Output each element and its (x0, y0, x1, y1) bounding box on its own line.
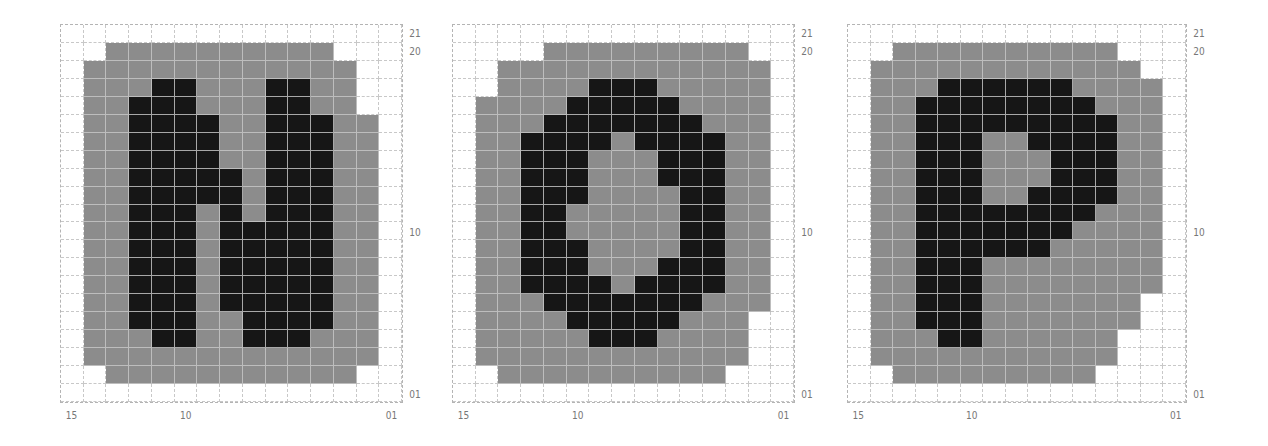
grid-cell (1096, 222, 1119, 240)
grid-cell (589, 294, 612, 312)
grid-cell (544, 312, 567, 330)
grid-cell (544, 240, 567, 258)
grid-cell (589, 97, 612, 115)
grid-cell (658, 348, 681, 366)
grid-cell (1006, 169, 1029, 187)
grid-cell (498, 79, 521, 97)
grid-cell (771, 366, 794, 384)
grid-cell (1028, 222, 1051, 240)
grid-cell (567, 97, 590, 115)
grid-cell (1096, 294, 1119, 312)
grid-cell (453, 258, 476, 276)
grid-cell (476, 169, 499, 187)
grid-cell (453, 240, 476, 258)
grid-cell (61, 151, 84, 169)
grid-cell (84, 97, 107, 115)
grid-cell (567, 294, 590, 312)
grid-cell (635, 97, 658, 115)
grid-cell (726, 187, 749, 205)
grid-cell (658, 97, 681, 115)
grid-cell (589, 330, 612, 348)
grid-cell (961, 366, 984, 384)
grid-cell (453, 330, 476, 348)
grid-cell (129, 205, 152, 223)
grid-cell (1006, 384, 1029, 402)
grid-cell (749, 43, 772, 61)
grid-cell (266, 312, 289, 330)
grid-cell (129, 294, 152, 312)
grid-cell (893, 258, 916, 276)
grid-cell (893, 222, 916, 240)
grid-cell (749, 205, 772, 223)
grid-cell (266, 43, 289, 61)
grid-cell (726, 222, 749, 240)
grid-cell (658, 25, 681, 43)
grid-cell (680, 79, 703, 97)
grid-cell (175, 79, 198, 97)
grid-cell (379, 169, 402, 187)
grid-cell (61, 366, 84, 384)
grid-cell (1141, 205, 1164, 223)
grid-cell (1118, 258, 1141, 276)
grid-cell (1051, 115, 1074, 133)
grid-cell (893, 348, 916, 366)
grid-cell (84, 79, 107, 97)
grid-cell (220, 115, 243, 133)
grid-cell (589, 115, 612, 133)
grid-cell (220, 133, 243, 151)
grid-cell (1096, 133, 1119, 151)
grid-cell (1141, 258, 1164, 276)
grid-cell (567, 133, 590, 151)
grid-cell (175, 151, 198, 169)
grid-cell (703, 294, 726, 312)
grid-cell (544, 169, 567, 187)
grid-cell (243, 115, 266, 133)
grid-cell (1006, 258, 1029, 276)
grid-cell (152, 61, 175, 79)
grid-cell (220, 330, 243, 348)
grid-cell (1006, 348, 1029, 366)
grid-cell (1163, 276, 1186, 294)
grid-cell (379, 384, 402, 402)
grid-cell (871, 61, 894, 79)
grid-cell (334, 115, 357, 133)
grid-cell (1051, 312, 1074, 330)
grid-cell (848, 240, 871, 258)
grid-cell (1096, 366, 1119, 384)
grid-cell (498, 222, 521, 240)
grid-cell (379, 133, 402, 151)
grid-cell (848, 348, 871, 366)
grid-cell (1118, 115, 1141, 133)
grid-cell (357, 97, 380, 115)
grid-cell (152, 222, 175, 240)
grid-cell (1141, 133, 1164, 151)
grid-cell (771, 240, 794, 258)
grid-cell (1028, 240, 1051, 258)
grid-cell (961, 294, 984, 312)
grid-cell (871, 258, 894, 276)
grid-cell (1073, 330, 1096, 348)
grid-cell (175, 133, 198, 151)
grid-cell (84, 384, 107, 402)
grid-cell (612, 222, 635, 240)
grid-cell (357, 43, 380, 61)
grid-cell (521, 97, 544, 115)
grid-cell (357, 258, 380, 276)
grid-cell (129, 276, 152, 294)
grid-cell (357, 61, 380, 79)
grid-cell (848, 43, 871, 61)
grid-cell (1073, 25, 1096, 43)
grid-cell (243, 240, 266, 258)
grid-cell (266, 61, 289, 79)
grid-cell (658, 240, 681, 258)
grid-cell (288, 312, 311, 330)
grid-cell (106, 25, 129, 43)
grid-cell (703, 169, 726, 187)
grid-cell (893, 205, 916, 223)
grid-cell (311, 348, 334, 366)
grid-cell (1028, 25, 1051, 43)
grid-cell (521, 330, 544, 348)
grid-cell (589, 384, 612, 402)
grid-cell (334, 79, 357, 97)
grid-cell (311, 151, 334, 169)
